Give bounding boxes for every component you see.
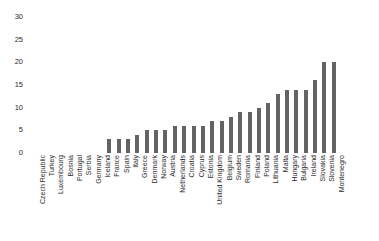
bar [220, 121, 224, 153]
x-axis-label-slot: Croatia [180, 155, 189, 241]
x-axis-label-slot: Lithuania [264, 155, 273, 241]
bar [248, 112, 252, 153]
y-axis-tick-0: 0 [19, 149, 23, 157]
bar-slot [114, 17, 123, 153]
x-axis-label-slot: Poland [254, 155, 263, 241]
bar-slot [189, 17, 198, 153]
x-axis-label-slot: Montenegro [329, 155, 338, 241]
bar [229, 117, 233, 153]
bar-slot [151, 17, 160, 153]
bar-slot [310, 17, 319, 153]
x-axis-label-slot: Denmark [142, 155, 151, 241]
bar-slot [254, 17, 263, 153]
bar-slot [123, 17, 132, 153]
y-axis-tick-10: 10 [15, 104, 23, 112]
y-axis-tick-15: 15 [15, 81, 23, 89]
bar-slot [245, 17, 254, 153]
bar [173, 126, 177, 153]
bar-slot [329, 17, 338, 153]
bar [107, 139, 111, 153]
plot-area [30, 17, 375, 153]
x-axis-label-slot: Turkey [39, 155, 48, 241]
x-axis-label-slot: Netherlands [170, 155, 179, 241]
x-axis-label-slot: Czech Republic [30, 155, 39, 241]
bar-slot [320, 17, 329, 153]
bar-slot [77, 17, 86, 153]
bar-slot [292, 17, 301, 153]
bar-slot [217, 17, 226, 153]
x-axis-label-slot: Finland [245, 155, 254, 241]
x-axis-label-slot: United Kingdom [208, 155, 217, 241]
x-axis-label-slot: France [105, 155, 114, 241]
bar [266, 103, 270, 153]
x-axis-label-slot: Austria [161, 155, 170, 241]
bar [332, 62, 336, 153]
bar-slot [226, 17, 235, 153]
bar [257, 108, 261, 153]
bar [145, 130, 149, 153]
bar [126, 139, 130, 153]
bar-slot [161, 17, 170, 153]
x-axis-label-slot: Iceland [95, 155, 104, 241]
x-axis-label-slot: Belgium [217, 155, 226, 241]
bar [163, 130, 167, 153]
y-axis-tick-20: 20 [15, 58, 23, 66]
x-axis-label-slot: Germany [86, 155, 95, 241]
x-axis-label-slot: Italy [123, 155, 132, 241]
bar-slot [170, 17, 179, 153]
x-axis-label-slot: Bosnia [58, 155, 67, 241]
bar-slot [273, 17, 282, 153]
bar-slot [133, 17, 142, 153]
bar [154, 130, 158, 153]
x-axis-label-slot: Slovenia [320, 155, 329, 241]
bar [276, 94, 280, 153]
bar-chart: 051015202530 Czech RepublicTurkeyLuxembo… [0, 0, 379, 241]
bar-series [30, 17, 375, 153]
bar [313, 80, 317, 153]
bar-slot [180, 17, 189, 153]
bar [210, 121, 214, 153]
bar-slot [264, 17, 273, 153]
bar [182, 126, 186, 153]
x-axis-label-slot: Spain [114, 155, 123, 241]
x-axis-label-slot: Luxembourg [49, 155, 58, 241]
bar [135, 135, 139, 153]
bar-slot [142, 17, 151, 153]
bar-slot [67, 17, 76, 153]
x-axis-label-slot: Hungary [282, 155, 291, 241]
bar-slot [198, 17, 207, 153]
y-axis-tick-5: 5 [19, 126, 23, 134]
bar-slot [39, 17, 48, 153]
bar [117, 139, 121, 153]
bar [192, 126, 196, 153]
x-axis-label-slot: Romania [236, 155, 245, 241]
bar-slot [95, 17, 104, 153]
x-axis-label-slot: Slovakia [310, 155, 319, 241]
x-axis-label-slot: Estonia [198, 155, 207, 241]
bar [238, 112, 242, 153]
x-axis-label-slot: Cyprus [189, 155, 198, 241]
bar-slot [208, 17, 217, 153]
x-axis-label-slot: Norway [151, 155, 160, 241]
bar-slot [301, 17, 310, 153]
bar [322, 62, 326, 153]
y-axis-tick-30: 30 [15, 13, 23, 21]
bar [201, 126, 205, 153]
x-axis-labels: Czech RepublicTurkeyLuxembourgBosniaPort… [30, 155, 375, 241]
x-axis-label-slot: Ireland [301, 155, 310, 241]
x-axis-label-slot: Greece [133, 155, 142, 241]
bar-slot [105, 17, 114, 153]
x-axis-label-slot: Bulgaria [292, 155, 301, 241]
bar-slot [282, 17, 291, 153]
bar [285, 90, 289, 153]
bar [304, 90, 308, 153]
x-axis-label-slot: Serbia [77, 155, 86, 241]
x-axis-label-slot: Portugal [67, 155, 76, 241]
x-axis-label-slot: Sweden [226, 155, 235, 241]
bar [294, 90, 298, 153]
bar-slot [86, 17, 95, 153]
bar-slot [236, 17, 245, 153]
bar-slot [30, 17, 39, 153]
x-axis-label-slot: Malta [273, 155, 282, 241]
x-axis-label: Montenegro [337, 155, 346, 192]
